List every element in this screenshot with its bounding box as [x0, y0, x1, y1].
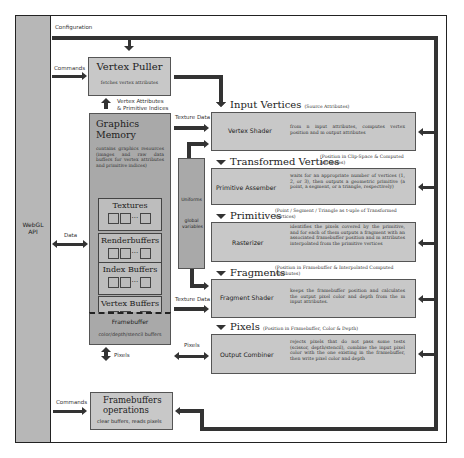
- configuration-bus-right: [434, 36, 438, 431]
- rasterizer-box: Rasterizer identifies the pixels covered…: [211, 222, 416, 262]
- texture-data-label-top: Texture Data: [175, 114, 210, 120]
- arrow-texture-to-vs: [174, 126, 204, 130]
- pixels-label-bottom: Pixels: [114, 352, 130, 358]
- webgl-api-title: WebGL API: [18, 221, 48, 235]
- commands-label-top: Commands: [54, 65, 85, 71]
- framebuffer-operations-title-1: Framebuffers: [103, 395, 172, 405]
- framebuffer-title: Framebuffer: [90, 318, 170, 325]
- textures-title: Textures: [99, 201, 161, 210]
- primitive-assembler-box: Primitive Assember waits for an appropri…: [211, 168, 416, 205]
- vertex-attributes-label: Vertex Attributes: [117, 98, 164, 104]
- configuration-bus: [52, 36, 438, 40]
- rasterizer-desc: identifies the pixels covered by the pri…: [290, 224, 405, 246]
- slot-icon: [120, 213, 131, 224]
- vertex-buffers-title: Vertex Buffers: [99, 299, 161, 308]
- framebuffer-operations-title-2: operations: [103, 405, 172, 415]
- ellipsis: ···: [132, 278, 139, 286]
- pipeline-label-input-vertices: Input Vertices (Source Attributes): [230, 99, 349, 110]
- arrow-head-icon: [82, 72, 87, 80]
- arrow-head-icon: [204, 282, 209, 290]
- slot-icon: [140, 248, 151, 259]
- uniforms-box: Uniforms global variables: [178, 158, 205, 269]
- index-buffers-buffer: Index Buffers ···: [98, 262, 162, 295]
- arrow-head-icon: [216, 102, 226, 107]
- primitive-assembler-desc: waits for an appropriate number of verti…: [290, 173, 405, 190]
- output-combiner-box: Output Combiner rejects pixels that do n…: [211, 334, 416, 374]
- configuration-label: Configuration: [55, 24, 92, 30]
- arrow-head-icon: [204, 352, 209, 360]
- fragment-shader-box: Fragment Shader keeps the framebuffer po…: [211, 279, 416, 318]
- rasterizer-name: Rasterizer: [232, 239, 263, 246]
- primitive-assembler-name: Primitive Assember: [216, 184, 276, 191]
- fragment-shader-name: Fragment Shader: [220, 294, 273, 301]
- arrow-commands-top: [52, 75, 82, 78]
- configuration-bus-bottom: [200, 427, 438, 431]
- vertex-puller-title: Vertex Puller: [89, 61, 170, 72]
- arrow-head-icon: [216, 160, 226, 165]
- ellipsis: ···: [132, 249, 139, 257]
- data-label: Data: [64, 232, 77, 238]
- textures-buffer: Textures ···: [98, 198, 162, 231]
- fragments-sub: (Position in Framebuffer & Interpolated …: [275, 265, 411, 276]
- framebuffer-operations-box: Framebuffers operations clear buffers, r…: [90, 392, 173, 430]
- uniforms-title: Uniforms: [179, 197, 204, 202]
- pixels-label-right: Pixels: [184, 342, 200, 348]
- vertex-puller-desc: fetches vertex attributes: [89, 80, 170, 85]
- arrow-head-icon: [216, 271, 226, 276]
- slot-icon: [120, 277, 131, 288]
- framebuffer-desc: color/depth/stencil buffers: [90, 332, 170, 337]
- arrow-head-icon: [204, 305, 209, 313]
- fragment-shader-desc: keeps the framebuffer position and calcu…: [290, 288, 405, 305]
- arrow-data: [57, 243, 83, 246]
- arrow-head-icon: [83, 240, 88, 248]
- slot-icon: [140, 277, 151, 288]
- slot-icon: [120, 248, 131, 259]
- arrow-puller-to-vs: [174, 75, 223, 79]
- arrow-head-icon: [204, 140, 209, 148]
- arrow-head-icon: [124, 46, 134, 51]
- arrow-memory-to-puller: [104, 103, 108, 109]
- commands-label-bottom: Commands: [56, 399, 87, 405]
- primitives-sub: (Point / Segment / Triangle as t-uple of…: [275, 208, 411, 219]
- index-buffers-title: Index Buffers: [99, 265, 161, 274]
- vertex-shader-name: Vertex Shader: [228, 127, 272, 134]
- vertex-puller-box: Vertex Puller fetches vertex attributes: [88, 57, 171, 96]
- uniforms-desc: global variables: [182, 218, 201, 230]
- slot-icon: [108, 248, 119, 259]
- arrow-head-icon: [82, 407, 87, 415]
- slot-icon: [108, 213, 119, 224]
- transformed-vertices-sub: (Position in Clip-Space & Computed Attri…: [320, 154, 410, 165]
- arrow-head-icon: [216, 214, 226, 219]
- framebuffer-operations-desc: clear buffers, reads pixels: [97, 418, 172, 424]
- primitive-indices-label: & Primitive Indices: [117, 105, 168, 111]
- texture-data-label-bottom: Texture Data: [175, 296, 210, 302]
- arrow-head-icon: [101, 356, 111, 361]
- graphics-memory-desc: contains graphics resources (images and …: [96, 146, 164, 168]
- pipeline-label-pixels: Pixels (Position in Framebuffer, Color &…: [230, 321, 358, 332]
- output-combiner-desc: rejects pixels that do not pass some tes…: [290, 339, 405, 361]
- arrow-pixels-right: [179, 355, 204, 358]
- graphics-memory-title: Graphics Memory: [96, 118, 170, 140]
- arrow-head-icon: [216, 325, 226, 330]
- slot-icon: [140, 213, 151, 224]
- arrow-commands-bottom: [53, 410, 82, 413]
- ellipsis: ···: [132, 214, 139, 222]
- framebuffer-box: Framebuffer color/depth/stencil buffers: [89, 312, 171, 345]
- vertex-shader-box: Vertex Shader from n input attributes, c…: [211, 112, 416, 151]
- output-combiner-name: Output Combiner: [220, 351, 274, 358]
- pipeline-label-primitives: Primitives: [230, 210, 281, 221]
- slot-icon: [108, 277, 119, 288]
- arrow-texture-to-fs: [174, 307, 204, 311]
- arrow-head-icon: [204, 124, 209, 132]
- vertex-shader-desc: from n input attributes, computes vertex…: [290, 124, 405, 135]
- webgl-api-panel: WebGL API: [16, 16, 51, 442]
- renderbuffers-title: Renderbuffers: [99, 236, 161, 245]
